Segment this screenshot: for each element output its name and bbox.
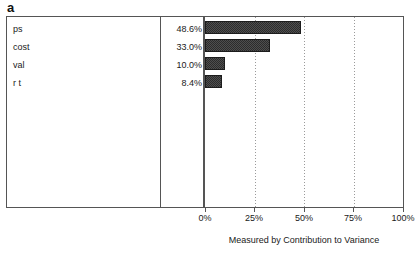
bar-val xyxy=(205,57,225,70)
row-label-rt: r t xyxy=(13,74,21,92)
x-tick-label-0: 0% xyxy=(185,212,225,224)
x-tick-label-100: 100% xyxy=(383,212,419,224)
gridline-50 xyxy=(304,17,305,207)
row-value-val: 10.0% xyxy=(162,56,202,74)
x-tick-label-25: 25% xyxy=(234,212,274,224)
x-tick-label-50: 50% xyxy=(284,212,324,224)
table-row: cost 33.0% xyxy=(7,38,203,56)
plot-inner xyxy=(205,17,403,207)
table-row: val 10.0% xyxy=(7,56,203,74)
row-label-ps: ps xyxy=(13,20,23,38)
row-label-val: val xyxy=(13,56,25,74)
row-value-rt: 8.4% xyxy=(162,74,202,92)
row-label-cost: cost xyxy=(13,38,30,56)
x-axis-title: Measured by Contribution to Variance xyxy=(204,234,404,246)
bar-ps xyxy=(205,21,301,34)
gridline-75 xyxy=(354,17,355,207)
panel-label: a xyxy=(7,0,14,15)
bar-plot-area xyxy=(204,16,404,208)
table-row: r t 8.4% xyxy=(7,74,203,92)
row-value-ps: 48.6% xyxy=(162,20,202,38)
bar-rt xyxy=(205,75,222,88)
x-tick-label-75: 75% xyxy=(333,212,373,224)
bar-cost xyxy=(205,39,270,52)
table-row: ps 48.6% xyxy=(7,20,203,38)
row-value-cost: 33.0% xyxy=(162,38,202,56)
